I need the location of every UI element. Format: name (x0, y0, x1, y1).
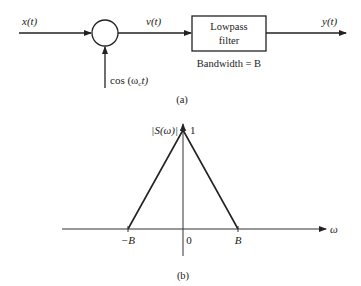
y-axis-label: |S(ω)| (151, 124, 178, 137)
x-axis-label: ω (330, 223, 338, 235)
figure-b-caption: (b) (177, 270, 190, 282)
multiplier-node (92, 20, 118, 46)
x-tick-label: 0 (186, 234, 192, 246)
figure-b-spectrum-plot: ω |S(ω)| −B0B1 (b) (62, 124, 338, 282)
filter-bandwidth-caption: Bandwidth = B (197, 58, 261, 69)
input-label: x(t) (21, 15, 38, 28)
carrier-label: cos (ωct) (110, 74, 148, 88)
figure-a-caption: (a) (176, 94, 188, 106)
y-tick-label: 1 (190, 124, 196, 136)
diagram-canvas: x(t) cos (ωct) v(t) Lowpass filter Bandw… (0, 0, 361, 286)
filter-label-line1: Lowpass (210, 21, 247, 32)
figure-a-block-diagram: x(t) cos (ωct) v(t) Lowpass filter Bandw… (19, 15, 346, 106)
product-label: v(t) (146, 15, 162, 28)
filter-label-line2: filter (219, 35, 240, 46)
output-label: y(t) (321, 15, 338, 28)
x-tick-label: B (235, 234, 242, 246)
x-tick-label: −B (121, 234, 135, 246)
